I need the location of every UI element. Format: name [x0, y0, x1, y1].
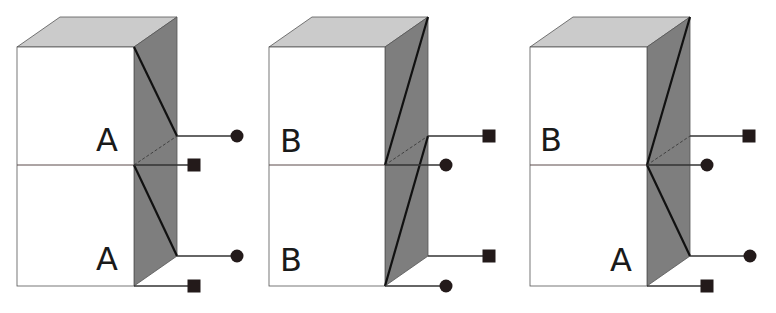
circle-terminal-icon — [231, 130, 244, 143]
stacked-block-diagram: AABBBA — [0, 0, 776, 313]
layer-label: B — [280, 241, 302, 279]
square-terminal-icon — [188, 280, 201, 293]
circle-terminal-icon — [231, 250, 244, 263]
square-terminal-icon — [188, 159, 201, 172]
side-face — [647, 17, 690, 286]
square-terminal-icon — [483, 130, 496, 143]
square-terminal-icon — [483, 250, 496, 263]
square-terminal-icon — [701, 280, 714, 293]
layer-label: A — [96, 240, 118, 278]
circle-terminal-icon — [701, 159, 714, 172]
layer-label: A — [96, 121, 118, 159]
circle-terminal-icon — [744, 250, 757, 263]
block-1: AA — [17, 17, 244, 293]
side-face — [134, 17, 177, 286]
block-3: BA — [530, 17, 757, 293]
circle-terminal-icon — [440, 280, 453, 293]
block-2: BB — [269, 17, 496, 293]
circle-terminal-icon — [440, 159, 453, 172]
square-terminal-icon — [743, 130, 756, 143]
layer-label: A — [610, 241, 632, 279]
side-face — [385, 17, 428, 286]
layer-label: B — [280, 122, 302, 160]
layer-label: B — [540, 121, 562, 159]
